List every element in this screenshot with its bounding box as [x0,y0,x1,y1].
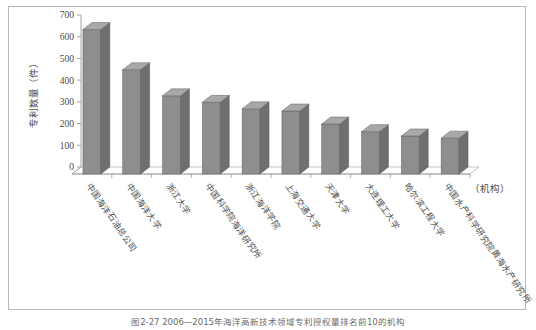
x-axis-label-2: 中国海洋大学 [124,181,164,232]
x-axis-title: （机构） [470,183,510,194]
y-tick-label-600: 600 [60,32,75,42]
figure-caption: 图2-27 2006—2015年海洋高新技术领域专利授权量排名前10的机构 [0,315,536,327]
bar-side-9 [419,129,428,174]
bar-6 [282,104,309,174]
bar-side-8 [379,125,388,174]
bar-front-2 [123,70,141,174]
y-tick-label-700: 700 [60,10,75,20]
y-tick-label-100: 100 [60,141,75,151]
y-tick-label-0: 0 [69,162,74,172]
y-tick-label-200: 200 [60,119,75,129]
bar-2 [123,63,150,174]
bar-front-6 [282,111,300,174]
bar-front-9 [401,136,419,174]
bar-5 [242,102,269,174]
bar-1 [83,23,110,174]
x-axis-label-3: 浙江大学 [164,181,194,217]
y-tick-label-400: 400 [60,76,75,86]
x-axis-label-7: 天津大学 [323,181,353,217]
bar-side-4 [220,95,229,174]
bar-side-10 [459,131,468,174]
bar-front-8 [362,132,380,174]
bar-side-6 [300,104,309,174]
x-axis-label-6: 上海交通大学 [283,181,323,232]
y-tick-label-300: 300 [60,97,75,107]
bar-9 [401,129,428,174]
bar-side-5 [260,102,269,174]
bar-front-7 [322,124,340,174]
bar-4 [202,95,229,174]
bar-front-10 [441,138,459,174]
bar-10 [441,131,468,174]
bar-side-7 [340,117,349,174]
x-axis-label-5: 浙江海洋学院 [243,181,283,232]
bar-chart: 0100200300400500600700专利数量（件）中国海洋石油总公司中国… [0,0,536,330]
x-axis-label-9: 哈尔滨工程大学 [403,181,448,239]
bar-3 [163,89,190,174]
x-axis-label-10: 中国水产科学研究院黄海水产研究所 [442,181,534,305]
y-axis-title: 专利数量（件） [28,58,39,128]
bar-front-5 [242,109,260,174]
figure-container: 0100200300400500600700专利数量（件）中国海洋石油总公司中国… [0,0,536,330]
bar-front-3 [163,96,181,174]
bar-side-3 [180,89,189,174]
bar-side-1 [101,23,110,174]
bar-7 [322,117,349,174]
y-tick-label-500: 500 [60,54,75,64]
bar-front-1 [83,30,101,174]
x-axis-label-8: 大连理工大学 [363,181,403,232]
bar-side-2 [141,63,150,174]
bar-8 [362,125,389,174]
bar-front-4 [202,102,220,174]
